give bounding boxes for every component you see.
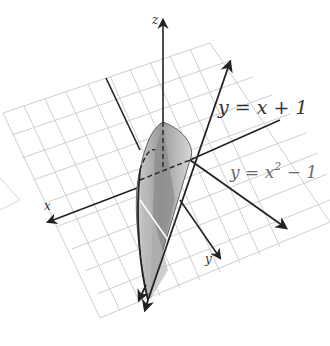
lower-arm [145, 300, 148, 310]
x-axis-label: x [44, 199, 51, 213]
region-diagram: z x y y = x + 1 y = x2 − 1 [0, 0, 330, 346]
curve-label-parabola: y = x2 − 1 [229, 160, 317, 182]
back-x-axis [106, 78, 140, 150]
z-axis-label: z [151, 13, 159, 27]
lower-arm-2 [139, 285, 146, 300]
surface-region [136, 122, 191, 300]
x-axis [48, 185, 145, 222]
grid-fragment [0, 178, 20, 210]
curve-label-line: y = x + 1 [217, 96, 308, 118]
y-axis-label: y [204, 252, 212, 266]
